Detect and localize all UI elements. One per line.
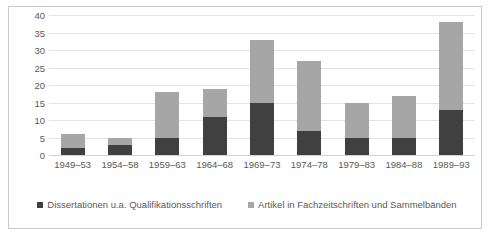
stacked-bar[interactable] [250,40,274,156]
bar-column[interactable] [286,7,333,155]
y-axis-tick-label: 20 [23,81,45,90]
bar-column[interactable] [144,7,191,155]
y-axis-tick-label: 5 [23,133,45,142]
legend-label: Artikel in Fachzeitschriften und Sammelb… [258,200,457,210]
x-axis-tick-label: 1949–53 [49,159,96,175]
bar-segment-artikel[interactable] [155,92,179,138]
bar-column[interactable] [191,7,238,155]
bar-segment-artikel[interactable] [439,22,463,110]
bar-segment-artikel[interactable] [108,138,132,145]
chart-plot-wrapper: 4035302520151050 1949–531954–581959–6319… [9,7,481,228]
bar-column[interactable] [380,7,427,155]
bar-series-group [49,7,475,155]
stacked-bar[interactable] [155,92,179,155]
bar-column[interactable] [96,7,143,155]
y-axis-tick-label: 25 [23,63,45,72]
bar-column[interactable] [49,7,96,155]
y-axis: 4035302520151050 [17,7,45,228]
legend-label: Dissertationen u.a. Qualifikationsschrif… [47,200,222,210]
bar-segment-artikel[interactable] [61,134,85,148]
bar-segment-dissertationen[interactable] [250,103,274,156]
x-axis-tick-label: 1989–93 [428,159,475,175]
y-axis-tick-label: 35 [23,28,45,37]
stacked-bar[interactable] [439,22,463,155]
bar-segment-artikel[interactable] [203,89,227,117]
square-marker-icon [248,202,254,208]
plot-area [49,7,475,228]
bar-segment-artikel[interactable] [345,103,369,138]
x-axis: 1949–531954–581959–631964–681969–731974–… [49,159,475,175]
bar-segment-dissertationen[interactable] [203,117,227,156]
bar-column[interactable] [333,7,380,155]
bar-segment-dissertationen[interactable] [297,131,321,156]
y-axis-tick-label: 10 [23,116,45,125]
bar-segment-dissertationen[interactable] [155,138,179,156]
stacked-bar[interactable] [297,61,321,156]
stacked-bar[interactable] [61,134,85,155]
stacked-bar[interactable] [203,89,227,156]
legend-item[interactable]: Artikel in Fachzeitschriften und Sammelb… [248,200,457,210]
x-axis-tick-label: 1974–78 [286,159,333,175]
bar-segment-dissertationen[interactable] [61,148,85,155]
chart-frame: 4035302520151050 1949–531954–581959–6319… [8,6,482,229]
y-axis-tick-label: 30 [23,46,45,55]
x-axis-tick-label: 1954–58 [96,159,143,175]
bar-segment-artikel[interactable] [297,61,321,131]
stacked-bar[interactable] [108,138,132,156]
bar-segment-dissertationen[interactable] [345,138,369,156]
y-axis-tick-label: 0 [23,151,45,160]
bar-segment-dissertationen[interactable] [392,138,416,156]
stacked-bar[interactable] [345,103,369,156]
y-axis-tick-label: 15 [23,98,45,107]
chart-legend: Dissertationen u.a. Qualifikationsschrif… [21,197,473,213]
bar-column[interactable] [428,7,475,155]
legend-item[interactable]: Dissertationen u.a. Qualifikationsschrif… [37,200,222,210]
y-axis-tick-label: 40 [23,11,45,20]
x-axis-tick-label: 1984–88 [380,159,427,175]
x-axis-tick-label: 1979–83 [333,159,380,175]
x-axis-tick-label: 1959–63 [144,159,191,175]
x-axis-tick-label: 1964–68 [191,159,238,175]
bar-segment-dissertationen[interactable] [108,145,132,156]
bar-segment-artikel[interactable] [250,40,274,103]
square-marker-icon [37,202,43,208]
x-axis-tick-label: 1969–73 [238,159,285,175]
bar-segment-dissertationen[interactable] [439,110,463,156]
bar-segment-artikel[interactable] [392,96,416,138]
stacked-bar[interactable] [392,96,416,156]
bar-column[interactable] [238,7,285,155]
